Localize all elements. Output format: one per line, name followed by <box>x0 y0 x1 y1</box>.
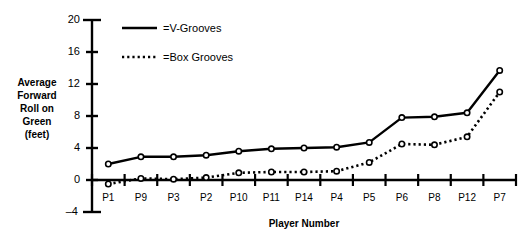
series-box-grooves <box>106 89 503 186</box>
data-point-v-p2 <box>203 153 208 158</box>
data-point-box-p10 <box>236 170 241 175</box>
plot-area <box>0 0 532 240</box>
data-point-v-p14 <box>301 145 306 150</box>
data-point-box-p5 <box>367 160 372 165</box>
data-point-box-p8 <box>432 142 437 147</box>
data-point-box-p14 <box>301 169 306 174</box>
chart-container: Average Forward Roll on Green (feet) Pla… <box>0 0 532 240</box>
series-v-grooves <box>106 68 503 167</box>
data-point-v-p3 <box>171 154 176 159</box>
data-point-v-p10 <box>236 149 241 154</box>
data-point-v-p1 <box>106 161 111 166</box>
data-point-v-p12 <box>464 110 469 115</box>
data-point-v-p4 <box>334 145 339 150</box>
data-point-v-p6 <box>399 115 404 120</box>
data-point-v-p7 <box>497 68 502 73</box>
data-point-box-p6 <box>399 141 404 146</box>
data-point-box-p4 <box>334 169 339 174</box>
data-point-v-p5 <box>367 140 372 145</box>
data-point-box-p12 <box>464 134 469 139</box>
data-point-box-p11 <box>269 169 274 174</box>
data-point-box-p9 <box>138 176 143 181</box>
data-point-v-p11 <box>269 146 274 151</box>
data-point-v-p9 <box>138 154 143 159</box>
data-point-box-p1 <box>106 181 111 186</box>
data-point-box-p3 <box>171 177 176 182</box>
data-point-box-p7 <box>497 89 502 94</box>
data-point-box-p2 <box>203 175 208 180</box>
data-point-v-p8 <box>432 114 437 119</box>
